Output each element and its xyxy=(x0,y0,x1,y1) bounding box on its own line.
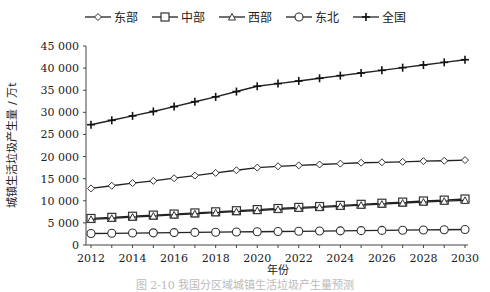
y-tick-label: 0 xyxy=(72,239,79,252)
y-axis-label: 城镇生活垃圾产生量 / 万t xyxy=(5,82,19,208)
y-tick-label: 40 000 xyxy=(41,62,80,75)
y-tick-label: 30 000 xyxy=(41,106,80,119)
x-tick-label: 2012 xyxy=(77,252,105,265)
x-axis-label: 年份 xyxy=(267,263,289,277)
y-tick-label: 15 000 xyxy=(41,173,80,186)
y-tick-label: 10 000 xyxy=(41,195,80,208)
x-tick-label: 2024 xyxy=(326,252,354,265)
line-chart: 05 00010 00015 00020 00025 00030 00035 0… xyxy=(0,0,490,292)
series-plus xyxy=(87,56,469,129)
x-tick-label: 2018 xyxy=(202,252,230,265)
x-tick-label: 2016 xyxy=(160,252,188,265)
y-tick-label: 20 000 xyxy=(41,151,80,164)
y-tick-label: 45 000 xyxy=(41,40,80,53)
series-circle xyxy=(87,226,469,238)
y-tick-label: 35 000 xyxy=(41,84,80,97)
x-tick-label: 2030 xyxy=(451,252,479,265)
y-tick-label: 25 000 xyxy=(41,128,80,141)
figure-caption: 图 2-10 我国分区域城镇生活垃圾产生量预测 xyxy=(0,276,490,292)
x-tick-label: 2026 xyxy=(368,252,396,265)
series-diamond xyxy=(88,157,469,192)
series-triangle xyxy=(88,197,469,223)
x-tick-label: 2028 xyxy=(409,252,437,265)
x-tick-label: 2014 xyxy=(119,252,147,265)
y-tick-label: 5 000 xyxy=(48,217,80,230)
